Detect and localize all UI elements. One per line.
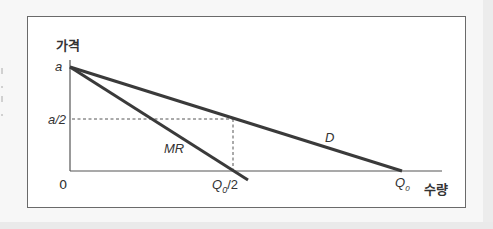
q-subscript: 0: [405, 184, 409, 193]
y-axis-label: 가격: [56, 39, 80, 52]
d-label: D: [325, 131, 334, 144]
x-axis-label: 수량: [424, 183, 448, 196]
chart-plot: [0, 0, 493, 229]
q-letter: Q: [395, 175, 405, 190]
demand-curve: [70, 67, 402, 171]
mr-curve: [70, 67, 248, 180]
mr-label: MR: [164, 142, 184, 155]
y-tick-a-half: a/2: [48, 113, 66, 126]
y-tick-a: a: [55, 60, 62, 73]
x-tick-q0: Q0: [395, 176, 410, 193]
x-tick-q0-half: Q0/2: [212, 178, 238, 195]
q-half-suffix: /2: [227, 177, 238, 192]
q-letter: Q: [212, 177, 222, 192]
origin-label: 0: [59, 178, 67, 191]
